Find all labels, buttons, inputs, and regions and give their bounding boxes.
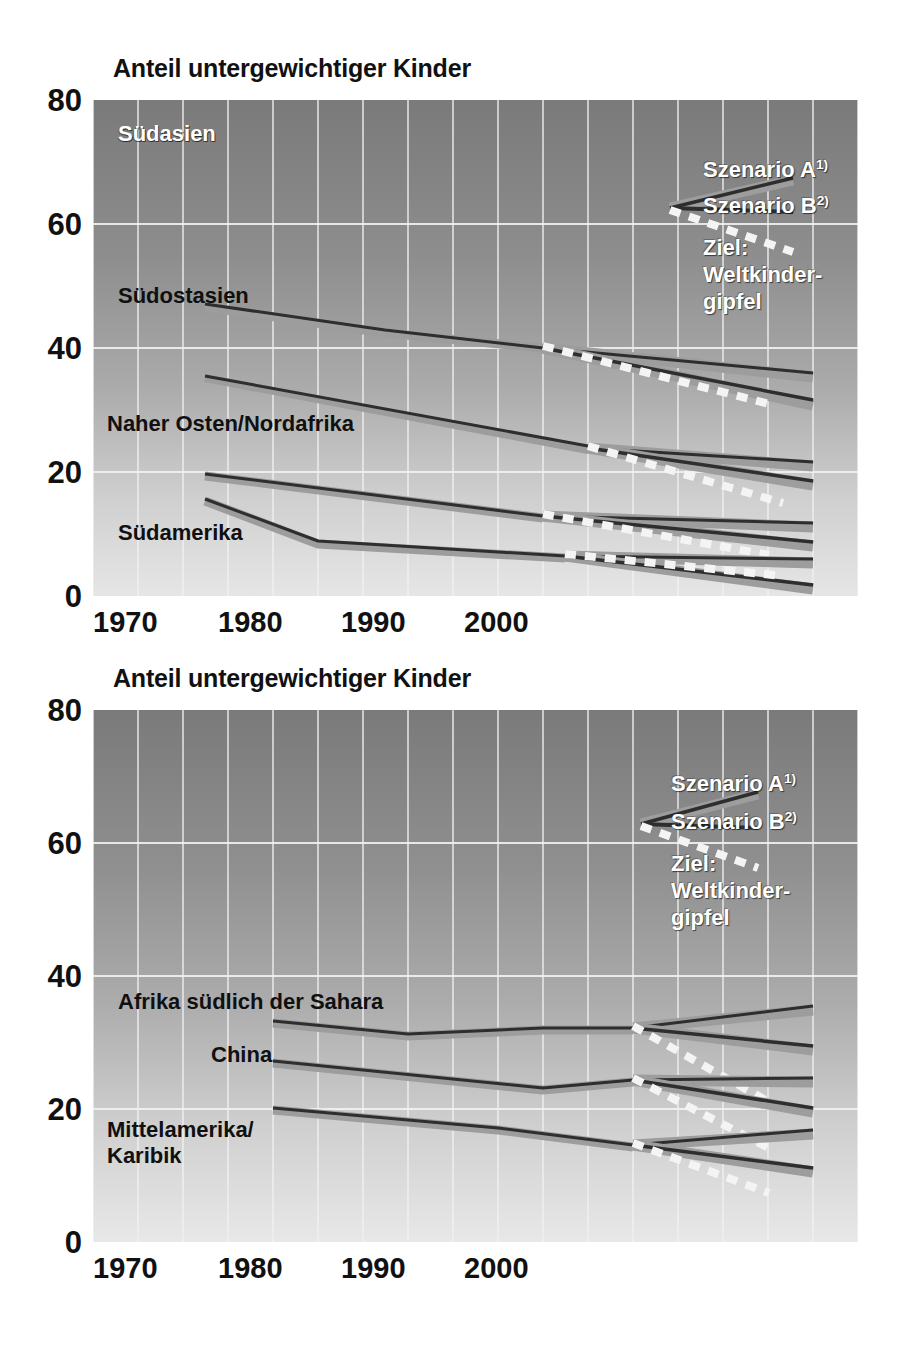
- series-label-afrika: Afrika südlich der Sahara: [118, 990, 383, 1014]
- y-tick-0: 0: [0, 1227, 82, 1258]
- y-tick-60: 60: [0, 209, 82, 240]
- legend-target-line1: Ziel:: [671, 852, 716, 876]
- chart-title: Anteil untergewichtiger Kinder: [113, 54, 471, 83]
- legend-scenario-a: Szenario A1): [671, 772, 796, 796]
- y-tick-20: 20: [0, 457, 82, 488]
- legend-scenario-b: Szenario B2): [703, 194, 829, 218]
- series-label-naher-osten: Naher Osten/Nordafrika: [107, 412, 354, 436]
- plot-area: Afrika südlich der Sahara China Mittelam…: [93, 710, 858, 1242]
- y-tick-0: 0: [0, 581, 82, 612]
- y-tick-40: 40: [0, 961, 82, 992]
- x-tick-1980: 1980: [218, 1254, 283, 1283]
- series-label-china: China: [211, 1043, 272, 1067]
- legend-scenario-b-sup: 2): [817, 193, 829, 208]
- infographic-page: Anteil untergewichtiger Kinder 80 60 40 …: [0, 0, 909, 1345]
- legend-scenario-a: Szenario A1): [703, 158, 828, 182]
- series-label-suedasien: Südasien: [118, 122, 216, 146]
- series-label-suedamerika: Südamerika: [118, 521, 243, 545]
- x-tick-1970: 1970: [93, 608, 158, 637]
- y-tick-80: 80: [0, 85, 82, 116]
- y-tick-60: 60: [0, 828, 82, 859]
- y-tick-20: 20: [0, 1094, 82, 1125]
- y-tick-80: 80: [0, 695, 82, 726]
- x-tick-1990: 1990: [341, 1254, 406, 1283]
- series-label-mittelamerika-line2: Karibik: [107, 1144, 182, 1168]
- chart-bottom: Anteil untergewichtiger Kinder 80 60 40 …: [0, 650, 909, 1310]
- x-tick-1970: 1970: [93, 1254, 158, 1283]
- legend-target-line2: Weltkinder-: [671, 879, 790, 903]
- legend-scenario-a-sup: 1): [816, 157, 828, 172]
- legend-scenario-b-text: Szenario B: [671, 809, 785, 834]
- legend-target-line2: Weltkinder-: [703, 263, 822, 287]
- legend-scenario-b-sup: 2): [785, 809, 797, 824]
- legend-scenario-a-text: Szenario A: [703, 157, 816, 182]
- chart-title: Anteil untergewichtiger Kinder: [113, 664, 471, 693]
- legend-scenario-b: Szenario B2): [671, 810, 797, 834]
- legend-scenario-a-text: Szenario A: [671, 771, 784, 796]
- plot-area: Südasien Südostasien Naher Osten/Nordafr…: [93, 100, 858, 596]
- legend-target-line3: gipfel: [671, 906, 730, 930]
- x-tick-2000: 2000: [464, 608, 529, 637]
- y-tick-40: 40: [0, 333, 82, 364]
- legend-scenario-b-text: Szenario B: [703, 193, 817, 218]
- series-label-suedostasien: Südostasien: [118, 284, 249, 308]
- legend-target-line1: Ziel:: [703, 236, 748, 260]
- chart-top: Anteil untergewichtiger Kinder 80 60 40 …: [0, 40, 909, 650]
- series-label-mittelamerika-line1: Mittelamerika/: [107, 1118, 254, 1142]
- x-tick-2000: 2000: [464, 1254, 529, 1283]
- legend-target-line3: gipfel: [703, 290, 762, 314]
- x-tick-1990: 1990: [341, 608, 406, 637]
- legend-scenario-a-sup: 1): [784, 771, 796, 786]
- x-tick-1980: 1980: [218, 608, 283, 637]
